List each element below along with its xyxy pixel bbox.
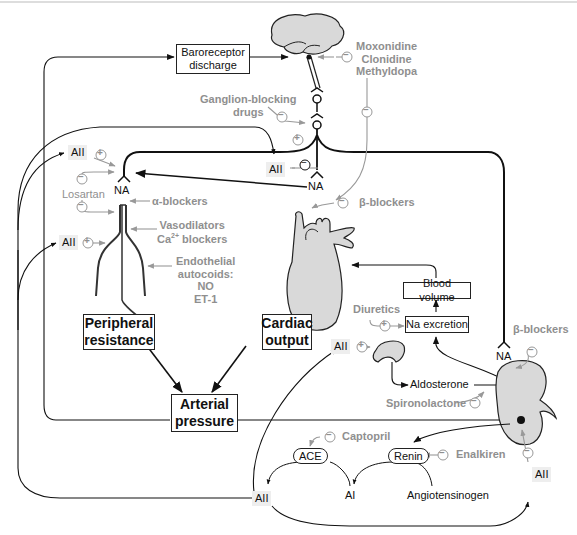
minus-sign: −: [363, 104, 369, 116]
angiotensin-ii-label: AII: [59, 235, 78, 250]
baroreceptor-discharge-box: Baroreceptor discharge: [176, 44, 250, 74]
spironolactone-label: Spironolactone: [386, 397, 466, 410]
minus-sign: −: [78, 199, 84, 211]
captopril-label: Captopril: [342, 430, 390, 443]
angiotensin-ii-label: AII: [532, 467, 551, 482]
angiotensin-ii-label: AII: [68, 145, 87, 160]
minus-sign: −: [439, 447, 445, 459]
aldosterone-label: Aldosterone: [410, 378, 469, 391]
central-drugs-label: Moxonidine Clonidine Methyldopa: [356, 40, 417, 78]
angiotensin-ii-label: AII: [331, 339, 350, 354]
plus-sign: +: [84, 235, 90, 247]
alpha-blockers-label: α-blockers: [152, 195, 208, 208]
angiotensin-ii-label: AII: [252, 491, 271, 506]
na-vessel-label: NA: [114, 184, 129, 197]
peripheral-resistance-box: Peripheral resistance: [83, 314, 155, 350]
bp-control-diagram: − − − + − − + − + − + + − − − − − Barore…: [0, 0, 577, 535]
minus-sign: −: [339, 195, 345, 207]
heart-icon: [287, 212, 354, 330]
minus-sign: −: [326, 429, 332, 441]
ai-label: AI: [345, 489, 355, 502]
plus-sign: +: [294, 132, 300, 144]
renin-enzyme: Renin: [388, 448, 429, 464]
minus-sign: −: [343, 49, 349, 61]
minus-sign: −: [471, 395, 477, 407]
minus-sign: −: [528, 344, 534, 356]
losartan-label: Losartan: [62, 188, 105, 201]
angiotensinogen-label: Angiotensinogen: [407, 489, 489, 502]
cardiac-output-box: Cardiac output: [262, 314, 312, 350]
arterial-pressure-box: Arterial pressure: [171, 394, 238, 432]
minus-sign: −: [524, 445, 530, 457]
diuretics-label: Diuretics: [353, 303, 400, 316]
na-excretion-box: Na excretion: [405, 316, 469, 333]
ace-enzyme: ACE: [293, 448, 328, 464]
kidney-icon: [496, 361, 556, 445]
plus-sign: +: [97, 147, 103, 159]
plus-sign: +: [358, 339, 364, 351]
na-heart-label: NA: [308, 180, 323, 193]
plus-sign: +: [381, 318, 387, 330]
endothelial-autocoids-label: Endothelial autocoids: NO ET-1: [176, 255, 235, 306]
beta-blockers-heart-label: β-blockers: [359, 196, 415, 209]
minus-sign: −: [301, 157, 307, 169]
angiotensin-ii-label: AII: [266, 162, 285, 177]
ca-blockers-label: Ca2+ blockers: [157, 232, 227, 245]
minus-sign: −: [78, 171, 84, 183]
na-kidney-label: NA: [496, 350, 511, 363]
brain-icon: [272, 14, 344, 54]
vasodilators-label: Vasodilators Ca2+ blockers: [157, 219, 227, 245]
beta-blockers-kidney-label: β-blockers: [513, 323, 569, 336]
adrenal-gland-icon: [373, 341, 404, 362]
blood-vessel-icon: [96, 205, 148, 324]
blood-volume-box: Blood volume: [403, 282, 471, 299]
ganglion-blocking-label: Ganglion-blocking drugs: [200, 93, 297, 118]
enalkiren-label: Enalkiren: [456, 448, 506, 461]
